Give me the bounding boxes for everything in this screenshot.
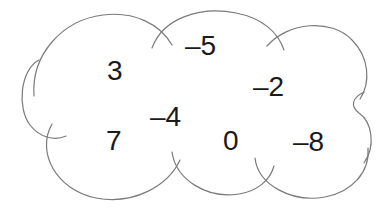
- cloud-arc-top-left: [34, 14, 172, 96]
- number-3: 3: [107, 57, 123, 85]
- cloud-arc-left: [22, 60, 66, 138]
- number-minus-2: –2: [253, 73, 284, 101]
- number-minus-4: –4: [150, 103, 181, 131]
- number-minus-8: –8: [293, 128, 324, 156]
- number-0: 0: [223, 127, 239, 155]
- cloud-arc-bottom-middle: [172, 152, 274, 195]
- cloud-number-figure: 3 –5 –2 –4 7 0 –8: [0, 0, 392, 213]
- number-7: 7: [106, 127, 122, 155]
- number-minus-5: –5: [185, 32, 216, 60]
